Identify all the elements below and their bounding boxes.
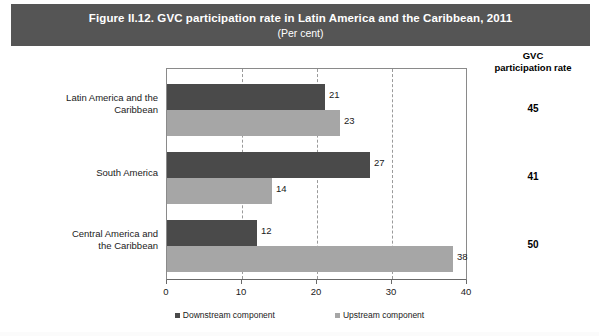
gvc-value-central-america-and-the-caribbean: 50 bbox=[478, 239, 588, 250]
category-label-line-1: Latin America and the bbox=[28, 92, 158, 104]
page-bottom-edge bbox=[0, 332, 599, 336]
tick-label-40: 40 bbox=[461, 286, 472, 297]
figure-subtitle: (Per cent) bbox=[277, 26, 323, 40]
category-label-latin-america-and-the-caribbean: Latin America and the Caribbean bbox=[28, 92, 158, 115]
legend-item-upstream-component: Upstream component bbox=[335, 310, 424, 320]
bar-downstream-central-america-and-the-caribbean bbox=[167, 220, 257, 246]
category-label-line-1: Central America and bbox=[28, 228, 158, 240]
tick-mark-20 bbox=[316, 280, 317, 284]
legend-label-downstream-component: Downstream component bbox=[183, 310, 275, 320]
tick-mark-40 bbox=[466, 280, 467, 284]
tick-label-20: 20 bbox=[311, 286, 322, 297]
tick-label-30: 30 bbox=[386, 286, 397, 297]
tick-label-10: 10 bbox=[236, 286, 247, 297]
category-label-south-america: South America bbox=[28, 167, 158, 179]
bar-value-upstream-latin-america-and-the-caribbean: 23 bbox=[344, 115, 355, 126]
bar-value-downstream-south-america: 27 bbox=[374, 157, 385, 168]
tick-label-0: 0 bbox=[163, 286, 168, 297]
gvc-value-south-america: 41 bbox=[478, 171, 588, 182]
tick-mark-30 bbox=[391, 280, 392, 284]
category-label-line-2: the Caribbean bbox=[28, 240, 158, 252]
category-label-central-america-and-the-caribbean: Central America and the Caribbean bbox=[28, 228, 158, 251]
gvc-participation-rate-header: GVC participation rate bbox=[478, 50, 588, 74]
bar-upstream-central-america-and-the-caribbean bbox=[167, 246, 453, 272]
bar-downstream-latin-america-and-the-caribbean bbox=[167, 84, 325, 110]
legend-label-upstream-component: Upstream component bbox=[343, 310, 424, 320]
figure-title: Figure II.12. GVC participation rate in … bbox=[89, 11, 512, 25]
bar-upstream-latin-america-and-the-caribbean bbox=[167, 110, 340, 136]
plot-area bbox=[166, 68, 467, 280]
category-label-line-2: Caribbean bbox=[28, 104, 158, 116]
chart-legend: Downstream component Upstream component bbox=[0, 310, 599, 320]
category-label-line-1: South America bbox=[28, 167, 158, 179]
bar-upstream-south-america bbox=[167, 178, 272, 204]
legend-swatch-icon-downstream bbox=[175, 313, 180, 318]
tick-mark-0 bbox=[166, 280, 167, 284]
figure-title-banner: Figure II.12. GVC participation rate in … bbox=[11, 4, 590, 46]
gvc-value-latin-america-and-the-caribbean: 45 bbox=[478, 103, 588, 114]
gvc-header-line-1: GVC bbox=[478, 50, 588, 62]
bar-value-upstream-south-america: 14 bbox=[276, 183, 287, 194]
bar-downstream-south-america bbox=[167, 152, 370, 178]
gvc-header-line-2: participation rate bbox=[478, 62, 588, 74]
legend-swatch-icon-upstream bbox=[335, 313, 340, 318]
bar-value-upstream-central-america-and-the-caribbean: 38 bbox=[457, 251, 468, 262]
tick-mark-10 bbox=[241, 280, 242, 284]
legend-item-downstream-component: Downstream component bbox=[175, 310, 275, 320]
bar-value-downstream-central-america-and-the-caribbean: 12 bbox=[261, 225, 272, 236]
bar-value-downstream-latin-america-and-the-caribbean: 21 bbox=[329, 89, 340, 100]
